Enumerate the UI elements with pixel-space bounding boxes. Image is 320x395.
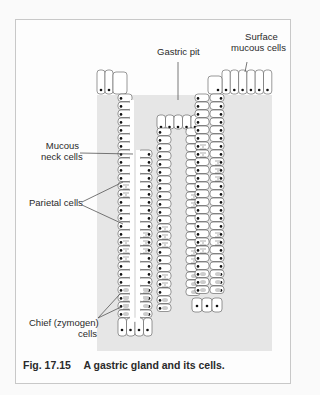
nucleus [220, 153, 223, 156]
nucleus [220, 257, 223, 260]
nucleus [159, 267, 162, 270]
zymogen-granules [200, 280, 206, 284]
nucleus [159, 307, 162, 310]
nucleus [120, 225, 123, 228]
nucleus [148, 193, 151, 196]
nucleus [120, 177, 123, 180]
label-chief-cells: Chief (zymogen) cells [29, 317, 97, 339]
nucleus [177, 126, 180, 129]
nucleus [220, 193, 223, 196]
nucleus [159, 243, 162, 246]
nucleus [120, 201, 123, 204]
nucleus [220, 241, 223, 244]
nucleus [258, 89, 261, 92]
nucleus [197, 233, 200, 236]
nucleus [197, 145, 200, 148]
nucleus [159, 163, 162, 166]
zymogen-granules [123, 304, 129, 308]
nucleus [220, 225, 223, 228]
nucleus [148, 273, 151, 276]
nucleus [220, 265, 223, 268]
nucleus [159, 195, 162, 198]
nucleus [220, 201, 223, 204]
nucleus [159, 203, 162, 206]
zymogen-granules [123, 288, 129, 292]
nucleus [148, 225, 151, 228]
nucleus [159, 211, 162, 214]
nucleus [159, 291, 162, 294]
nucleus [159, 259, 162, 262]
nucleus [120, 209, 123, 212]
nucleus [100, 89, 103, 92]
nucleus [120, 105, 123, 108]
nucleus [233, 89, 236, 92]
nucleus [120, 193, 123, 196]
nucleus [197, 209, 200, 212]
nucleus [220, 249, 223, 252]
nucleus [129, 329, 132, 332]
nucleus [148, 217, 151, 220]
nucleus [159, 171, 162, 174]
surface-mucous-cell [208, 76, 222, 94]
nucleus [197, 257, 200, 260]
nucleus [146, 329, 149, 332]
nucleus [185, 126, 188, 129]
nucleus [159, 187, 162, 190]
nucleus [159, 283, 162, 286]
nucleus [197, 273, 200, 276]
nucleus [159, 131, 162, 134]
nucleus [148, 265, 151, 268]
nucleus [197, 113, 200, 116]
label-mucous-neck-cells: Mucous neck cells [41, 140, 79, 162]
nucleus [266, 89, 269, 92]
zymogen-granules [215, 280, 221, 284]
nucleus [148, 153, 151, 156]
nucleus [197, 137, 200, 140]
nucleus [196, 305, 199, 308]
nucleus [148, 161, 151, 164]
nucleus [120, 297, 123, 300]
zymogen-granules [200, 272, 206, 276]
nucleus [148, 209, 151, 212]
nucleus [197, 225, 200, 228]
nucleus [120, 273, 123, 276]
nucleus [197, 121, 200, 124]
nucleus [220, 105, 223, 108]
nucleus [159, 147, 162, 150]
nucleus [120, 97, 123, 100]
nucleus [120, 289, 123, 292]
label-surface-mucous-cells: Surface mucous cells [231, 31, 286, 53]
nucleus [197, 249, 200, 252]
nucleus [217, 89, 220, 92]
figure-number: Fig. 17.15 [23, 359, 71, 371]
nucleus [120, 113, 123, 116]
zymogen-granules [215, 288, 221, 292]
nucleus [197, 105, 200, 108]
nucleus [121, 329, 124, 332]
nucleus [120, 121, 123, 124]
nucleus [220, 217, 223, 220]
nucleus [120, 265, 123, 268]
zymogen-granules [123, 312, 129, 316]
nucleus [197, 185, 200, 188]
zymogen-granules [162, 306, 168, 310]
nucleus [159, 275, 162, 278]
nucleus [197, 217, 200, 220]
nucleus [220, 137, 223, 140]
nucleus [241, 89, 244, 92]
nucleus [197, 201, 200, 204]
nucleus [206, 305, 209, 308]
nucleus [197, 153, 200, 156]
nucleus [220, 169, 223, 172]
label-mucous-neck-line1: Mucous [41, 140, 79, 151]
nucleus [159, 139, 162, 142]
nucleus [120, 281, 123, 284]
nucleus [148, 249, 151, 252]
nucleus [120, 145, 123, 148]
nucleus [159, 179, 162, 182]
zymogen-granules [143, 296, 149, 300]
nucleus [197, 193, 200, 196]
label-mucous-neck-line2: neck cells [41, 151, 79, 162]
nucleus [220, 121, 223, 124]
nucleus [220, 161, 223, 164]
